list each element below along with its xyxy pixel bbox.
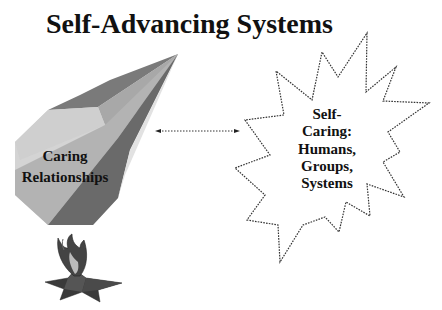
bidirectional-connector [155,129,240,133]
right-node-line-1: Self- [312,106,341,122]
right-node-line-3: Humans, [298,141,356,157]
arrowhead-left-icon [155,129,161,133]
diagram-canvas: Caring Relationships Self- Caring: Human… [0,0,442,310]
right-node-line-2: Caring: [302,123,352,139]
self-caring-node[interactable]: Self- Caring: Humans, Groups, Systems [235,33,429,262]
arrowhead-right-icon [234,129,240,133]
right-node-line-4: Groups, [301,158,353,174]
right-node-line-5: Systems [301,175,353,191]
eternal-flame-star-icon [45,234,122,302]
left-node-line-2: Relationships [22,169,109,185]
left-node-line-1: Caring [43,148,89,164]
caring-relationships-node[interactable]: Caring Relationships [15,54,178,225]
